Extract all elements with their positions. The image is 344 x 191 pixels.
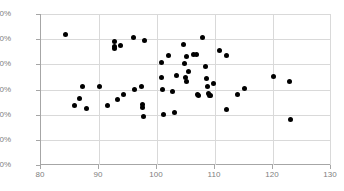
data-point bbox=[184, 79, 189, 84]
data-point bbox=[63, 32, 68, 37]
gridline-vertical bbox=[330, 14, 331, 165]
data-point bbox=[131, 35, 136, 40]
x-axis-tick-mark bbox=[98, 165, 99, 169]
y-axis-tick-mark bbox=[36, 90, 40, 91]
y-axis-tick-label: 5.0% bbox=[0, 35, 11, 43]
data-point bbox=[77, 96, 82, 101]
data-point bbox=[170, 89, 175, 94]
data-point bbox=[224, 107, 229, 112]
data-point bbox=[288, 117, 293, 122]
gridline-vertical bbox=[273, 14, 274, 165]
gridline-horizontal bbox=[41, 39, 331, 40]
data-point bbox=[287, 79, 292, 84]
plot-area bbox=[40, 14, 330, 165]
data-point bbox=[217, 48, 222, 53]
data-point bbox=[121, 92, 126, 97]
data-point bbox=[182, 61, 187, 66]
y-axis-tick-label: 4.0% bbox=[0, 60, 11, 68]
data-point bbox=[159, 75, 164, 80]
y-axis-tick-label: 3.0% bbox=[0, 86, 11, 94]
x-axis-tick-label: 110 bbox=[194, 171, 234, 179]
data-point bbox=[84, 106, 89, 111]
data-point bbox=[186, 69, 191, 74]
gridline-horizontal bbox=[41, 140, 331, 141]
data-point bbox=[112, 46, 117, 51]
scatter-chart: 0.0%1.0%2.0%3.0%4.0%5.0%6.0%809010011012… bbox=[0, 0, 344, 191]
y-axis-tick-mark bbox=[36, 14, 40, 15]
data-point bbox=[161, 112, 166, 117]
data-point bbox=[184, 54, 189, 59]
data-point bbox=[105, 103, 110, 108]
data-point bbox=[174, 73, 179, 78]
data-point bbox=[80, 84, 85, 89]
y-axis-tick-label: 0.0% bbox=[0, 161, 11, 169]
data-point bbox=[132, 87, 137, 92]
data-point bbox=[235, 92, 240, 97]
x-axis-tick-mark bbox=[156, 165, 157, 169]
gridline-vertical bbox=[99, 14, 100, 165]
y-axis-tick-label: 6.0% bbox=[0, 10, 11, 18]
x-axis-tick-mark bbox=[40, 165, 41, 169]
x-axis-tick-mark bbox=[330, 165, 331, 169]
x-axis-tick-label: 100 bbox=[136, 171, 176, 179]
data-point bbox=[141, 114, 146, 119]
data-point bbox=[194, 52, 199, 57]
data-point bbox=[204, 76, 209, 81]
data-point bbox=[203, 64, 208, 69]
x-axis-tick-label: 130 bbox=[310, 171, 344, 179]
y-axis-tick-mark bbox=[36, 115, 40, 116]
y-axis-tick-mark bbox=[36, 64, 40, 65]
data-point bbox=[205, 84, 210, 89]
x-axis-tick-label: 120 bbox=[252, 171, 292, 179]
data-point bbox=[242, 86, 247, 91]
data-point bbox=[115, 97, 120, 102]
data-point bbox=[181, 42, 186, 47]
data-point bbox=[118, 43, 123, 48]
gridline-horizontal bbox=[41, 115, 331, 116]
y-axis-tick-mark bbox=[36, 140, 40, 141]
data-point bbox=[271, 74, 276, 79]
data-point bbox=[200, 35, 205, 40]
data-point bbox=[142, 38, 147, 43]
x-axis-tick-label: 80 bbox=[20, 171, 60, 179]
data-point bbox=[72, 103, 77, 108]
data-point bbox=[166, 53, 171, 58]
data-point bbox=[196, 93, 201, 98]
gridline-vertical bbox=[215, 14, 216, 165]
y-axis-tick-mark bbox=[36, 39, 40, 40]
data-point bbox=[97, 84, 102, 89]
data-point bbox=[224, 53, 229, 58]
x-axis-tick-mark bbox=[272, 165, 273, 169]
data-point bbox=[139, 84, 144, 89]
x-axis-tick-label: 90 bbox=[78, 171, 118, 179]
data-point bbox=[172, 110, 177, 115]
data-point bbox=[160, 87, 165, 92]
gridline-horizontal bbox=[41, 90, 331, 91]
data-point bbox=[140, 105, 145, 110]
y-axis-tick-label: 1.0% bbox=[0, 136, 11, 144]
x-axis-tick-mark bbox=[214, 165, 215, 169]
gridline-vertical bbox=[157, 14, 158, 165]
data-point bbox=[159, 60, 164, 65]
gridline-horizontal bbox=[41, 14, 331, 15]
data-point bbox=[208, 93, 213, 98]
y-axis-tick-label: 2.0% bbox=[0, 111, 11, 119]
